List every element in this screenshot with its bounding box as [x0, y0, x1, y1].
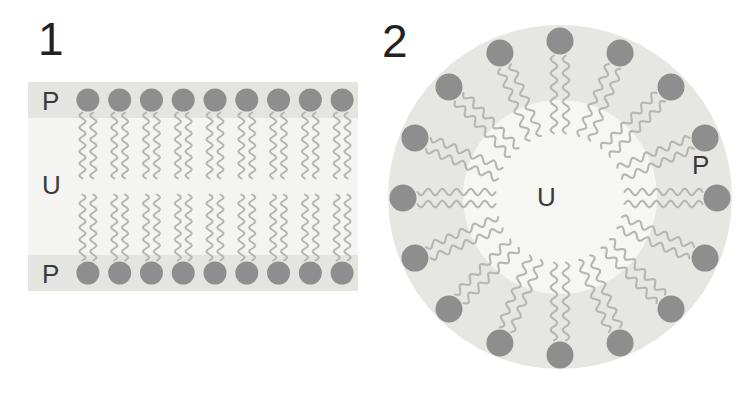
lipid-tail: [344, 113, 350, 179]
lipid-tail: [500, 255, 532, 327]
lipid-head-group: [299, 89, 322, 112]
lipid-head-group: [235, 89, 258, 112]
lipid-tail: [111, 195, 117, 261]
lipid-tail: [249, 113, 255, 179]
lipid-tail: [79, 113, 85, 179]
lipid-tail: [207, 113, 213, 179]
micelle-lipid-ring: [385, 22, 735, 374]
lipid-tail: [563, 56, 570, 134]
lipid-head-group: [401, 245, 428, 272]
panel-1-number: 1: [38, 16, 64, 62]
bilayer-label-polar-top: P: [42, 88, 59, 114]
lipid-tail: [122, 113, 128, 179]
bilayer-lower-leaflet: [72, 187, 358, 291]
lipid-head-group: [658, 73, 685, 100]
lipid-tail: [344, 195, 350, 261]
lipid-head-group: [607, 330, 634, 357]
lipid-tail: [302, 195, 308, 261]
lipid-head-group: [235, 262, 258, 285]
lipid-head-group: [172, 262, 195, 285]
lipid-tail: [143, 113, 149, 179]
lipid-head-group: [692, 124, 719, 151]
lipid-bilayer-panel: [28, 82, 358, 291]
lipid-tail: [563, 263, 570, 341]
lipid-tail: [281, 113, 287, 179]
lipid-head-group: [140, 89, 163, 112]
lipid-head-group: [299, 262, 322, 285]
lipid-tail: [122, 195, 128, 261]
lipid-tail: [455, 101, 511, 157]
lipid-head-group: [76, 262, 99, 285]
lipid-head-group: [331, 262, 354, 285]
lipid-tail: [90, 113, 96, 179]
lipid-tail: [249, 195, 255, 261]
micelle-label-polar: P: [692, 152, 709, 178]
lipid-tail: [313, 113, 319, 179]
lipid-head-group: [692, 245, 719, 272]
lipid-tail: [175, 113, 181, 179]
lipid-head-group: [547, 342, 574, 369]
lipid-head-group: [108, 262, 131, 285]
bilayer-label-polar-bottom: P: [42, 261, 59, 287]
lipid-tail: [79, 195, 85, 261]
lipid-head-group: [267, 262, 290, 285]
lipid-head-group: [435, 73, 462, 100]
lipid-tail: [217, 195, 223, 261]
lipid-head-group: [267, 89, 290, 112]
micelle-panel: [385, 22, 735, 374]
lipid-head-group: [331, 89, 354, 112]
lipid-head-group: [76, 89, 99, 112]
lipid-tail: [418, 201, 496, 208]
lipid-tail: [143, 195, 149, 261]
lipid-head-group: [658, 296, 685, 323]
lipid-head-group: [607, 39, 634, 66]
lipid-tail: [186, 195, 192, 261]
lipid-tail: [625, 201, 703, 208]
lipid-tail: [281, 195, 287, 261]
lipid-head-group: [435, 296, 462, 323]
lipid-tail: [175, 195, 181, 261]
lipid-tail: [617, 226, 689, 258]
lipid-head-group: [486, 330, 513, 357]
lipid-head-group: [390, 185, 417, 212]
lipid-head-group: [547, 28, 574, 55]
lipid-tail: [551, 56, 558, 134]
lipid-tail: [579, 260, 611, 332]
lipid-tail: [431, 138, 503, 170]
lipid-tail: [610, 239, 666, 295]
lipid-tail: [302, 113, 308, 179]
lipid-head-group: [108, 89, 131, 112]
lipid-tail: [418, 189, 496, 196]
lipid-head-group: [172, 89, 195, 112]
lipid-tail: [625, 189, 703, 196]
lipid-tail: [426, 217, 498, 249]
bilayer-label-nonpolar: U: [42, 172, 61, 198]
lipid-head-group: [486, 39, 513, 66]
lipid-tail: [90, 195, 96, 261]
lipid-tail: [270, 113, 276, 179]
lipid-tail: [154, 113, 160, 179]
lipid-tail: [186, 113, 192, 179]
lipid-tail: [313, 195, 319, 261]
lipid-tail: [334, 113, 340, 179]
lipid-tail: [207, 195, 213, 261]
lipid-tail: [238, 195, 244, 261]
lipid-tail: [270, 195, 276, 261]
lipid-tail: [238, 113, 244, 179]
lipid-tail: [217, 113, 223, 179]
figure-root: 1 P U P 2 U P: [0, 0, 745, 393]
lipid-tail: [551, 263, 558, 341]
lipid-tail: [154, 195, 160, 261]
bilayer-upper-leaflet: [72, 82, 358, 186]
lipid-tail: [334, 195, 340, 261]
lipid-head-group: [204, 262, 227, 285]
lipid-tail: [622, 147, 694, 179]
lipid-tail: [601, 93, 657, 149]
lipid-head-group: [401, 124, 428, 151]
lipid-tail: [588, 69, 620, 141]
lipid-tail: [463, 248, 519, 304]
lipid-tail: [111, 113, 117, 179]
lipid-head-group: [140, 262, 163, 285]
lipid-head-group: [204, 89, 227, 112]
lipid-tail: [509, 64, 541, 136]
